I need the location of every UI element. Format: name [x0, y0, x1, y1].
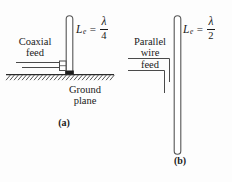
- effective-length-equation-a: Le = λ 4: [76, 16, 108, 41]
- coaxial-feed-label-line2: feed: [4, 47, 66, 58]
- ground-plane-label-line2: plane: [56, 95, 114, 106]
- panel-b-dipole: Parallel wire feed Le = λ 2 (b): [120, 0, 232, 182]
- coaxial-feed-line: [16, 63, 61, 68]
- coaxial-feed-label-line1: Coaxial: [4, 36, 66, 47]
- ground-plane-label-line1: Ground: [56, 84, 114, 95]
- coaxial-feed-label: Coaxial feed: [4, 36, 66, 59]
- coax-connector: [60, 61, 67, 71]
- equation-a-relation: =: [90, 23, 96, 35]
- equation-b-fraction: λ 2: [207, 16, 215, 41]
- caption-a: (a): [44, 118, 84, 129]
- panel-a-monopole: Coaxial feed Ground plane Le = λ 4 (a): [0, 0, 120, 182]
- parallel-feed-label-line2: wire: [123, 47, 177, 58]
- equation-a-fraction: λ 4: [100, 16, 108, 41]
- quarter-wave-monopole-rod: [66, 16, 73, 74]
- parallel-wire-feed-label: Parallel wire feed: [123, 36, 177, 70]
- ground-plane-label: Ground plane: [56, 84, 114, 107]
- equation-b-relation: =: [197, 23, 203, 35]
- parallel-feed-label-line1: Parallel: [123, 36, 177, 47]
- equation-b-numerator: λ: [207, 16, 214, 29]
- equation-b-variable: L: [183, 23, 189, 35]
- equation-b-subscript: e: [190, 27, 193, 36]
- effective-length-equation-b: Le = λ 2: [183, 16, 215, 41]
- antenna-figure: Coaxial feed Ground plane Le = λ 4 (a): [0, 0, 232, 182]
- caption-b: (b): [160, 156, 200, 167]
- hatched-ground-plane: [6, 75, 114, 81]
- equation-a-variable: L: [76, 23, 82, 35]
- equation-a-numerator: λ: [100, 16, 107, 29]
- equation-a-denominator: 4: [100, 30, 107, 42]
- equation-b-denominator: 2: [207, 30, 214, 42]
- equation-a-subscript: e: [83, 27, 86, 36]
- parallel-feed-label-line3: feed: [123, 59, 177, 70]
